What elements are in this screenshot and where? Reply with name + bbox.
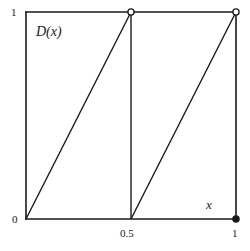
open-circle-at-half-one [128, 9, 134, 15]
open-circle-at-one-one [233, 9, 239, 15]
y-axis-tick-label-1: 1 [11, 7, 17, 18]
filled-dot-at-one-zero [233, 216, 239, 222]
sawtooth-branch-2 [131, 12, 236, 219]
sawtooth-branch-1 [26, 12, 131, 219]
x-axis-tick-label-half: 0.5 [120, 228, 134, 239]
y-axis-tick-label-0: 0 [12, 214, 18, 225]
x-axis-tick-label-1: 1 [232, 228, 238, 239]
function-name-label: D(x) [36, 25, 62, 39]
x-axis-variable-label: x [206, 198, 212, 211]
function-plot-figure: 1 0 0.5 1 D(x) x [0, 0, 250, 251]
